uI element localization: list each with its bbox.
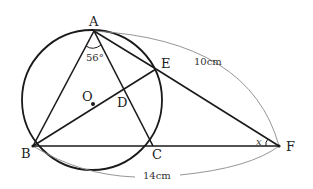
vertex-dot-f	[277, 144, 280, 147]
length-label-bf: 14cm	[143, 170, 171, 181]
label-c: C	[152, 147, 162, 162]
label-e: E	[161, 56, 171, 71]
diagram-canvas: A E O D B C F 56° x 10cm 14cm	[0, 0, 313, 189]
vertex-dot-b	[31, 144, 34, 147]
label-f: F	[286, 139, 295, 154]
segment-be	[33, 69, 156, 146]
dimension-arc-bf-2	[180, 146, 279, 175]
angle-label-a: 56°	[86, 52, 104, 63]
label-o: O	[82, 89, 93, 104]
angle-label-x: x	[256, 136, 262, 147]
length-label-af: 10cm	[194, 56, 222, 67]
label-d: D	[117, 95, 127, 110]
segment-ef	[156, 69, 279, 146]
geometry-figure: A E O D B C F 56° x 10cm 14cm	[0, 0, 313, 189]
dimension-arc-bf	[33, 146, 135, 177]
label-a: A	[88, 14, 99, 29]
angle-mark-a	[86, 45, 101, 48]
angle-mark-f	[266, 139, 268, 146]
label-b: B	[21, 146, 31, 161]
